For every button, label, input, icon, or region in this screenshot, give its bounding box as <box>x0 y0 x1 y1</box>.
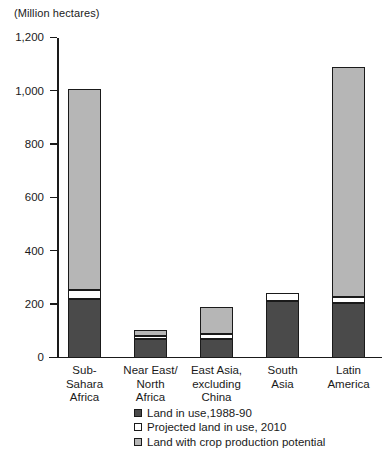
bars-layer <box>57 38 382 358</box>
bar-segment[interactable] <box>134 330 167 336</box>
bar-segment[interactable] <box>332 303 365 358</box>
y-axis-tick: 200 <box>50 303 57 305</box>
bar-group[interactable] <box>266 293 299 358</box>
y-axis-tick: 600 <box>50 197 57 199</box>
y-axis-tick-label: 200 <box>25 298 44 310</box>
plot-area: 02004006008001,0001,200 <box>57 38 382 358</box>
y-axis-tick-label: 800 <box>25 138 44 150</box>
legend-label: Projected land in use, 2010 <box>147 421 286 433</box>
x-axis-category-label: Latin America <box>306 364 392 391</box>
bar-chart: (Million hectares) 02004006008001,0001,2… <box>0 0 392 457</box>
y-axis-tick-label: 0 <box>38 351 44 363</box>
bar-group[interactable] <box>200 307 233 358</box>
legend-item[interactable]: Land in use,1988-90 <box>134 406 325 420</box>
bar-segment[interactable] <box>134 336 167 339</box>
bar-group[interactable] <box>332 67 365 358</box>
y-axis-tick: 400 <box>50 250 57 252</box>
y-axis-tick: 0 <box>50 357 57 359</box>
bar-segment[interactable] <box>266 293 299 302</box>
y-axis-tick: 1,200 <box>50 37 57 39</box>
legend-swatch-icon <box>134 438 142 446</box>
bar-segment[interactable] <box>332 297 365 304</box>
y-axis-tick-label: 1,000 <box>15 85 44 97</box>
legend-swatch-icon <box>134 423 142 431</box>
y-axis-tick: 800 <box>50 143 57 145</box>
bar-segment[interactable] <box>266 301 299 358</box>
y-axis-tick-label: 600 <box>25 191 44 203</box>
bar-segment[interactable] <box>134 339 167 358</box>
bar-segment[interactable] <box>200 339 233 358</box>
bar-segment[interactable] <box>200 334 233 339</box>
y-axis-unit-caption: (Million hectares) <box>14 7 100 19</box>
bar-segment[interactable] <box>332 67 365 296</box>
legend-label: Land with crop production potential <box>147 436 325 448</box>
y-axis-tick-label: 1,200 <box>15 31 44 43</box>
y-axis-tick-label: 400 <box>25 245 44 257</box>
legend-item[interactable]: Projected land in use, 2010 <box>134 421 325 435</box>
legend-label: Land in use,1988-90 <box>147 407 252 419</box>
y-axis-tick: 1,000 <box>50 90 57 92</box>
bar-segment[interactable] <box>68 89 101 290</box>
bar-segment[interactable] <box>68 290 101 299</box>
bar-segment[interactable] <box>68 299 101 358</box>
bar-group[interactable] <box>68 89 101 358</box>
bar-segment[interactable] <box>200 307 233 334</box>
bar-group[interactable] <box>134 330 167 358</box>
legend-item[interactable]: Land with crop production potential <box>134 435 325 449</box>
chart-legend: Land in use,1988-90Projected land in use… <box>134 406 325 450</box>
legend-swatch-icon <box>134 409 142 417</box>
